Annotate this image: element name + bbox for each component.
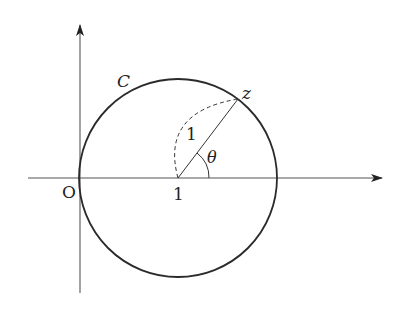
label-point-z: z xyxy=(241,83,252,103)
diagram-canvas: O C z 1 1 θ xyxy=(0,0,406,315)
label-origin: O xyxy=(62,182,76,202)
label-angle-theta: θ xyxy=(207,148,217,167)
label-curve-c: C xyxy=(117,71,130,91)
label-center-1: 1 xyxy=(173,184,184,204)
label-radius-1: 1 xyxy=(186,124,197,144)
